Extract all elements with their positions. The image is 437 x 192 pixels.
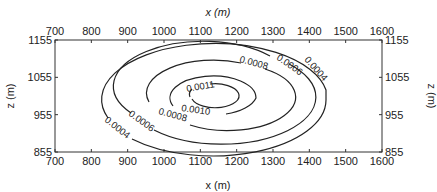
x-tick-label-bottom: 1000 [152,155,176,167]
x-tick-label-top: 1200 [224,25,248,37]
y-tick-label-right: 1155 [385,34,409,46]
x-tick-label-top: 1000 [152,25,176,37]
x-tick-label-bottom: 1500 [333,155,357,167]
x-tick-label-top: 900 [118,25,136,37]
x-ticks: 7007008008009009001000100011001100120012… [46,25,394,167]
x-tick-label-bottom: 1200 [224,155,248,167]
x-tick-label-top: 1100 [189,25,213,37]
contour-label: 0.0004 [303,54,331,83]
contour-chart: 7007008008009009001000100011001100120012… [0,0,437,192]
y-tick-label-right: 1055 [385,71,409,83]
x-tick-label-bottom: 1300 [261,155,285,167]
y-tick-label-left: 1155 [28,34,52,46]
x-tick-label-bottom: 1100 [189,155,213,167]
x-tick-label-top: 1400 [297,25,321,37]
y-axis-label-left: z (m) [4,83,16,108]
x-tick-label-bottom: 800 [82,155,100,167]
y-ticks: 1155115510551055955955855855 [28,34,410,158]
contour-label: 0.0004 [103,114,133,141]
x-tick-label-top: 1300 [261,25,285,37]
y-tick-label-left: 855 [34,146,52,158]
contour-label: 0.0011 [185,78,215,94]
y-tick-label-left: 1055 [28,71,52,83]
y-tick-label-right: 955 [385,109,403,121]
plot-frame [55,40,382,152]
y-tick-label-left: 955 [34,109,52,121]
y-axis-label-right: z (m) [426,83,437,108]
contour-0.0008 [147,60,296,130]
x-tick-label-top: 1500 [333,25,357,37]
contour-label: 0.0006 [275,52,305,78]
x-tick-label-bottom: 1400 [297,155,321,167]
contour-label: 0.0008 [238,53,269,71]
x-axis-label-top: x (m) [204,6,230,18]
y-tick-label-right: 855 [385,146,403,158]
x-tick-label-top: 800 [82,25,100,37]
x-axis-label-bottom: x (m) [205,179,230,191]
x-tick-label-bottom: 900 [118,155,136,167]
